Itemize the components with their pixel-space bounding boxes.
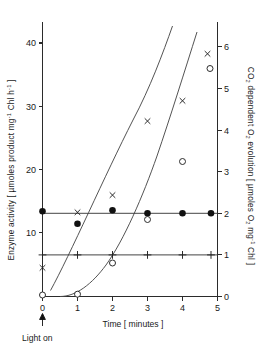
x-ticklabel-0: 0 [40,303,45,313]
marker-open-circle [207,66,213,72]
marker-open-circle [75,291,81,297]
left-ticklabel-10: 10 [26,228,36,238]
right-ticklabel-5: 5 [224,84,229,94]
right-axis-title: CO2 dependent O2 evolution [ µmoles O2 m… [245,67,256,265]
marker-open-circle [180,159,186,165]
marker-filled-circle [208,210,215,217]
light-on-label: Light on [22,333,53,343]
left-ticklabel-40: 40 [26,38,36,48]
marker-plus [39,251,47,259]
marker-plus [179,251,187,259]
x-ticklabel-3: 3 [145,303,150,313]
x-axis-title: Time [ minutes ] [103,319,164,329]
x-axis-ticklabels: 0 1 2 3 4 5 [40,303,220,313]
left-axis-ticklabels: 40 30 20 10 [26,38,36,238]
marker-cross [145,118,151,124]
left-axis-title-tail: ] [7,79,16,84]
marker-plus [144,251,152,259]
series-o2-evolution-markers [40,66,214,299]
left-axis-title: Enzyme activity [ µmoles product mg-1 Ch… [6,79,16,260]
right-axis-title-d: mg [246,225,255,240]
marker-filled-circle [74,221,81,228]
right-ticklabel-3: 3 [224,167,229,177]
right-ticklabel-4: 4 [224,126,229,136]
right-ticklabel-6: 6 [224,42,229,52]
right-axis-title-e: Chl ] [246,245,255,266]
right-ticklabel-1: 1 [224,250,229,260]
figure-container: 40 30 20 10 0 1 2 3 4 5 6 [0,0,256,347]
marker-filled-circle [109,207,116,214]
chart-svg: 40 30 20 10 0 1 2 3 4 5 6 [0,0,256,347]
marker-cross [110,192,116,198]
marker-filled-circle [39,208,46,215]
right-axis-title-c: evolution [ µmoles O [246,139,255,221]
light-on-arrow-icon [40,314,46,327]
series-control-filled-circle-markers [39,207,214,227]
marker-open-circle [40,292,46,298]
left-ticklabel-30: 30 [26,102,36,112]
left-axis-title-main: Enzyme activity [ µmoles product mg [7,118,16,260]
marker-open-circle [145,217,151,223]
x-ticklabel-5: 5 [215,303,220,313]
marker-plus [109,251,117,259]
marker-cross [205,51,211,57]
marker-cross [75,210,81,216]
right-ticklabel-0: 0 [224,292,229,302]
right-axis-title-a: CO [246,67,255,80]
right-axis-ticks [218,47,222,297]
marker-filled-circle [179,210,186,217]
left-axis-ticks [39,43,43,233]
right-ticklabel-2: 2 [224,209,229,219]
right-axis-ticklabels: 0 1 2 3 4 5 6 [224,42,229,302]
x-ticklabel-2: 2 [110,303,115,313]
x-ticklabel-4: 4 [180,303,185,313]
curve-o2-evolution [60,32,197,297]
left-axis-title-mid: Chl h [7,90,16,113]
marker-open-circle [110,260,116,266]
x-axis-ticks [43,297,218,301]
x-ticklabel-1: 1 [75,303,80,313]
curve-enzyme-activity [51,26,173,291]
right-axis-title-b: dependent O [246,83,255,136]
marker-plus [74,251,82,259]
marker-filled-circle [144,210,151,217]
marker-plus [207,251,215,259]
left-ticklabel-20: 20 [26,165,36,175]
marker-cross [180,98,186,104]
